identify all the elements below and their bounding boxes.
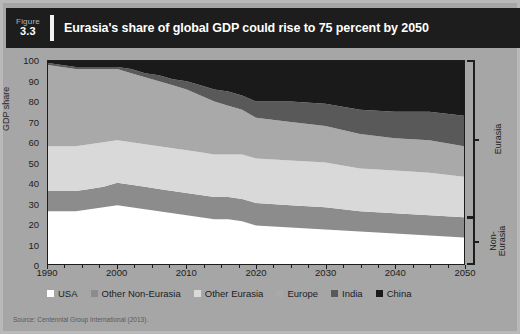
- legend-item-other-non-eurasia[interactable]: Other Non-Eurasia: [91, 288, 181, 299]
- bracket-label: Eurasia: [494, 124, 503, 155]
- source-note: Source: Centennial Group International (…: [13, 316, 148, 323]
- stacked-area-chart: [47, 60, 465, 265]
- y-axis-tick-label: 100: [23, 55, 39, 66]
- y-axis-tick-label: 50: [28, 157, 39, 168]
- x-axis-tick-label: 2040: [385, 267, 406, 278]
- bracket-non-eurasia: [467, 218, 478, 265]
- figure-title: Eurasia's share of global GDP could rise…: [64, 21, 429, 35]
- x-axis-tick-label: 2010: [176, 267, 197, 278]
- legend-label: China: [387, 288, 412, 299]
- legend-swatch: [331, 290, 338, 297]
- legend-swatch: [91, 290, 98, 297]
- legend-item-usa[interactable]: USA: [47, 288, 78, 299]
- y-axis-tick-label: 70: [28, 116, 39, 127]
- y-axis-tick-label: 10: [28, 239, 39, 250]
- y-axis-tick-label: 90: [28, 75, 39, 86]
- x-axis-tick-label: 1990: [36, 267, 57, 278]
- legend-swatch: [47, 290, 54, 297]
- legend-item-india[interactable]: India: [331, 288, 363, 299]
- y-axis-tick-label: 30: [28, 198, 39, 209]
- y-axis-tick-label: 80: [28, 96, 39, 107]
- x-axis-tick-label: 2020: [245, 267, 266, 278]
- figure-container: Figure 3.3 Eurasia's share of global GDP…: [0, 0, 520, 334]
- chart-legend: USAOther Non-EurasiaOther EurasiaEuropeI…: [47, 286, 487, 300]
- legend-item-europe[interactable]: Europe: [276, 288, 318, 299]
- legend-label: USA: [58, 288, 78, 299]
- legend-label: Other Eurasia: [205, 288, 264, 299]
- figure-number-block: Figure 3.3: [6, 18, 50, 38]
- legend-item-other-eurasia[interactable]: Other Eurasia: [194, 288, 264, 299]
- y-axis-tick-label: 20: [28, 219, 39, 230]
- legend-item-china[interactable]: China: [376, 288, 412, 299]
- figure-header: Figure 3.3 Eurasia's share of global GDP…: [6, 8, 520, 48]
- x-axis-tick-label: 2030: [315, 267, 336, 278]
- bracket-label: Non- Eurasia: [489, 226, 508, 257]
- header-divider: [50, 15, 54, 41]
- area-series-group: [48, 61, 464, 264]
- y-axis-tick-label: 40: [28, 178, 39, 189]
- y-axis-ticks: 0102030405060708090100: [3, 55, 43, 270]
- bracket-eurasia: [467, 60, 478, 218]
- legend-label: Europe: [287, 288, 318, 299]
- x-axis-tick-label: 2000: [106, 267, 127, 278]
- legend-swatch: [194, 290, 201, 297]
- legend-label: India: [342, 288, 363, 299]
- x-axis-ticks: 1990200020102020203020402050: [47, 267, 465, 281]
- group-brackets: EurasiaNon- Eurasia: [465, 55, 520, 270]
- y-axis-tick-label: 60: [28, 137, 39, 148]
- legend-swatch: [376, 290, 383, 297]
- plot-area: [47, 60, 465, 265]
- legend-swatch: [276, 290, 283, 297]
- figure-number: 3.3: [6, 26, 50, 38]
- legend-label: Other Non-Eurasia: [102, 288, 181, 299]
